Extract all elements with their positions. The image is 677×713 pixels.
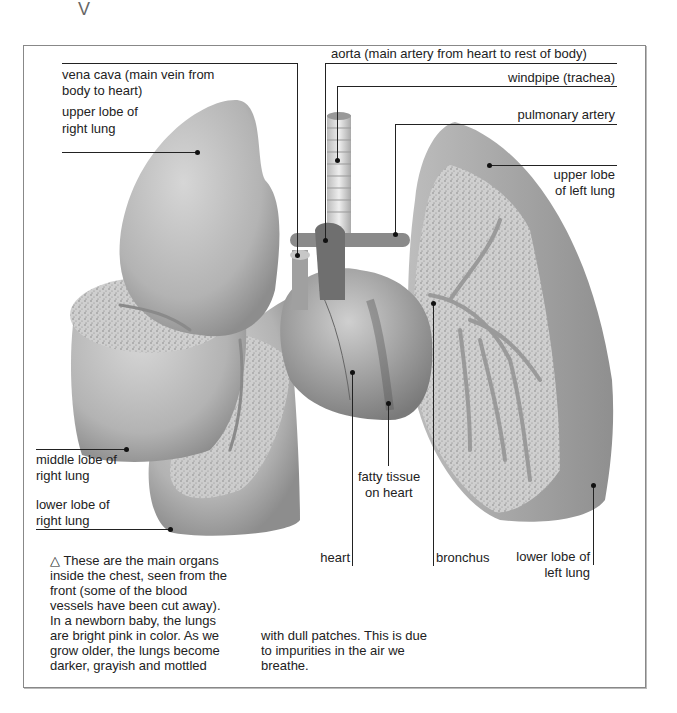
label-fatty-2: on heart [365, 485, 413, 501]
caption-column-2: with dull patches. This is due to impuri… [261, 628, 471, 673]
label-upper-right-1: upper lobe of [62, 104, 138, 120]
label-pulmonary-artery: pulmonary artery [517, 107, 615, 123]
dot-vena-cava [295, 253, 300, 258]
label-lower-left-1: lower lobe of [516, 549, 590, 565]
label-vena-cava-2: body to heart) [62, 83, 142, 99]
label-fatty-1: fatty tissue [358, 469, 420, 485]
label-middle-right-2: right lung [36, 468, 89, 484]
label-aorta: aorta (main artery from heart to rest of… [331, 46, 587, 62]
leader-line-vena-cava-v [297, 63, 298, 258]
label-upper-left-1: upper lobe [554, 167, 615, 183]
dot-upper-left [487, 163, 492, 168]
label-lower-left-2: left lung [544, 565, 590, 581]
dot-lower-left [591, 483, 596, 488]
label-lower-right-1: lower lobe of [36, 497, 110, 513]
dot-lower-right [168, 527, 173, 532]
caption-column-1: △ These are the main organs inside the c… [50, 553, 260, 673]
dot-aorta [323, 238, 328, 243]
label-vena-cava-1: vena cava (main vein from [62, 67, 214, 83]
leader-line-upper-right [62, 152, 197, 153]
leader-line-windpipe [337, 86, 617, 87]
dot-fatty [386, 401, 391, 406]
dot-upper-right [195, 150, 200, 155]
leader-line-bronchus [433, 303, 434, 566]
label-upper-right-2: right lung [62, 121, 115, 137]
upper-lobe-right-lung [120, 100, 280, 336]
leader-line-middle-right [36, 449, 126, 450]
leader-line-heart [352, 372, 353, 566]
dot-windpipe [335, 158, 340, 163]
label-bronchus: bronchus [436, 550, 489, 566]
leader-line-pulmonary-v [395, 124, 396, 234]
dot-bronchus [431, 301, 436, 306]
leader-line-lower-right [36, 529, 170, 530]
leader-line-fatty [388, 403, 389, 466]
dot-middle-right [124, 447, 129, 452]
leader-line-aorta-v [325, 63, 326, 240]
label-lower-right-2: right lung [36, 513, 89, 529]
label-upper-left-2: of left lung [555, 183, 615, 199]
label-heart: heart [320, 550, 350, 566]
label-windpipe: windpipe (trachea) [508, 70, 615, 86]
dot-pulmonary [393, 232, 398, 237]
leader-line-pulmonary [395, 124, 617, 125]
leader-line-lower-left [593, 485, 594, 565]
leader-line-aorta [325, 63, 617, 64]
leader-line-vena-cava [62, 63, 297, 64]
leader-line-windpipe-v [337, 86, 338, 160]
dot-heart [350, 370, 355, 375]
leader-line-upper-left [489, 165, 617, 166]
label-middle-right-1: middle lobe of [36, 452, 117, 468]
triangle-icon: △ [50, 553, 60, 568]
